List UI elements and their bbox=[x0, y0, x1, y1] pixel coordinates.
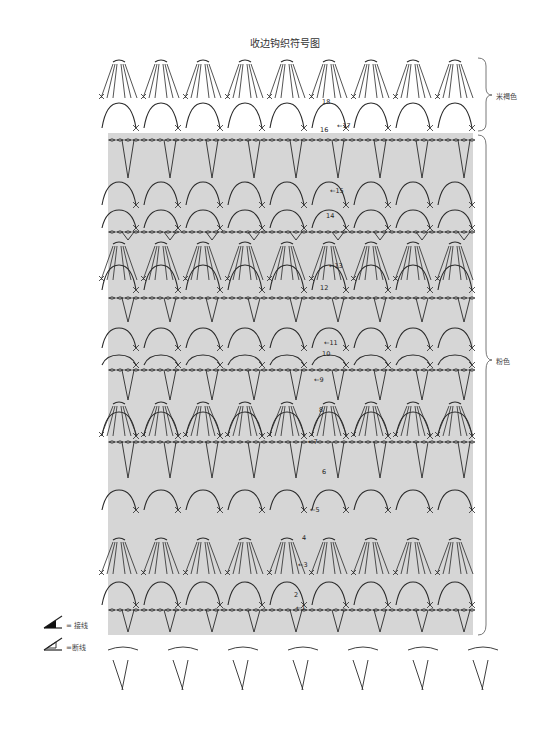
row-number-7: ←7 bbox=[308, 438, 318, 446]
brace-label-pink: 粉色 bbox=[496, 356, 510, 366]
legend-cut-label: =断线 bbox=[66, 642, 86, 652]
row-number-4: 4 bbox=[302, 534, 306, 542]
legend-join-label: = 接线 bbox=[66, 620, 88, 630]
row-number-6: 6 bbox=[322, 468, 326, 476]
row-number-17: ←17 bbox=[337, 122, 351, 130]
row-number-14: 14 bbox=[326, 212, 334, 220]
row-number-11: ←11 bbox=[324, 339, 338, 347]
row-number-5: ←5 bbox=[310, 506, 320, 514]
row-number-12: 12 bbox=[320, 284, 328, 292]
row-number-9: ←9 bbox=[314, 376, 324, 384]
row-number-8: 8 bbox=[319, 406, 323, 414]
row-number-2: 2 bbox=[294, 591, 298, 599]
legend-cut-yarn: =断线 bbox=[66, 642, 86, 652]
brace-beige bbox=[478, 58, 492, 131]
legend-join-yarn: = 接线 bbox=[66, 620, 88, 630]
row-number-18: 18 bbox=[322, 98, 330, 106]
row-number-1: ←1 bbox=[296, 604, 306, 612]
row-number-3: ←3 bbox=[298, 561, 308, 569]
row-number-15: ←15 bbox=[330, 187, 344, 195]
brace-label-beige: 米褐色 bbox=[496, 91, 517, 101]
cut-yarn-icon bbox=[44, 638, 62, 650]
row-number-13: ←13 bbox=[329, 262, 343, 270]
row-number-16: 16 bbox=[320, 126, 328, 134]
join-yarn-icon bbox=[44, 616, 62, 628]
brace-pink bbox=[478, 135, 492, 635]
row-number-10: 10 bbox=[322, 350, 330, 358]
